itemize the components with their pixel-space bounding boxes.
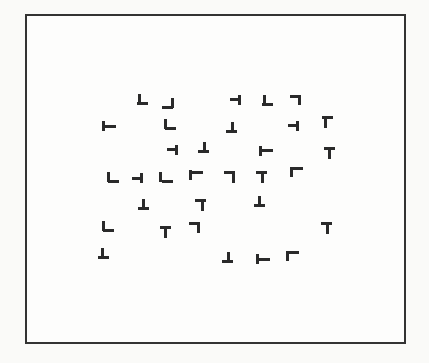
search-item <box>256 171 270 183</box>
vertical-segment <box>296 121 299 131</box>
horizontal-segment <box>162 180 173 183</box>
vertical-segment <box>298 95 301 105</box>
search-item <box>321 222 335 234</box>
vertical-segment <box>258 196 261 206</box>
vertical-segment <box>164 119 167 129</box>
vertical-segment <box>227 252 230 262</box>
vertical-segment <box>107 172 110 182</box>
search-item <box>102 121 116 133</box>
horizontal-segment <box>288 251 299 254</box>
search-item <box>290 167 304 179</box>
vertical-segment <box>290 167 293 177</box>
horizontal-segment <box>259 258 270 261</box>
search-item <box>167 145 181 157</box>
vertical-segment <box>238 95 241 105</box>
search-item <box>222 253 236 265</box>
search-item <box>132 173 146 185</box>
search-item <box>230 95 244 107</box>
horizontal-segment <box>292 167 303 170</box>
search-item <box>189 222 203 234</box>
vertical-segment <box>164 228 167 238</box>
search-item <box>259 146 273 158</box>
search-item <box>198 143 212 155</box>
vertical-segment <box>286 251 289 261</box>
search-item <box>98 249 112 261</box>
vertical-segment <box>175 145 178 155</box>
search-item <box>324 147 338 159</box>
search-item <box>159 173 173 185</box>
vertical-segment <box>256 254 259 264</box>
vertical-segment <box>326 224 329 234</box>
vertical-segment <box>259 146 262 156</box>
vertical-segment <box>324 118 327 128</box>
search-item <box>254 197 268 209</box>
vertical-segment <box>263 95 266 105</box>
vertical-segment <box>197 223 200 233</box>
search-item <box>138 200 152 212</box>
search-item <box>322 116 336 128</box>
search-item <box>290 95 304 107</box>
horizontal-segment <box>105 125 116 128</box>
vertical-segment <box>189 170 192 180</box>
search-item <box>189 170 203 182</box>
search-item <box>102 222 116 234</box>
vertical-segment <box>203 142 206 152</box>
vertical-segment <box>328 149 331 159</box>
search-item <box>262 96 276 108</box>
search-item <box>256 254 270 266</box>
vertical-segment <box>142 199 145 209</box>
search-item <box>286 251 300 263</box>
search-item <box>224 171 238 183</box>
stimulus-frame <box>25 14 406 344</box>
search-item <box>162 99 176 111</box>
vertical-segment <box>159 172 162 182</box>
search-item <box>107 173 121 185</box>
vertical-segment <box>138 94 141 104</box>
horizontal-segment <box>192 171 203 174</box>
vertical-segment <box>231 122 234 132</box>
vertical-segment <box>102 221 105 231</box>
search-item <box>226 123 240 135</box>
vertical-segment <box>140 173 143 183</box>
vertical-segment <box>232 173 235 183</box>
vertical-segment <box>171 98 174 108</box>
search-item <box>164 120 178 132</box>
vertical-segment <box>102 121 105 131</box>
vertical-segment <box>201 201 204 211</box>
vertical-segment <box>261 173 264 183</box>
horizontal-segment <box>262 149 273 152</box>
search-item <box>137 95 151 107</box>
search-item <box>195 199 209 211</box>
search-item <box>160 226 174 238</box>
vertical-segment <box>101 248 104 258</box>
search-item <box>288 121 302 133</box>
